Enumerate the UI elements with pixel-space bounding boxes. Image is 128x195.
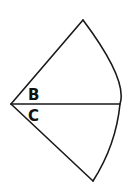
angle-label-c: C	[28, 107, 39, 125]
sector-diagram: B C	[0, 0, 128, 195]
upper-radius-line	[11, 20, 83, 104]
angle-label-b: B	[28, 86, 39, 104]
sector-arc	[83, 20, 121, 181]
lower-radius-line	[11, 104, 93, 181]
